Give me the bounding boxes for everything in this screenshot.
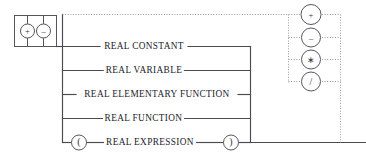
term-label-real-elementary-function: REAL ELEMENTARY FUNCTION: [82, 90, 231, 99]
operator-subtract-glyph: –: [309, 33, 313, 42]
syntax-diagram-canvas: + – REAL CONSTANT REAL VARIABLE REAL ELE…: [0, 0, 366, 159]
close-paren-glyph: ): [229, 137, 232, 147]
operator-add-glyph: +: [309, 10, 314, 19]
open-paren-glyph: (: [77, 137, 80, 147]
sign-minus-glyph: –: [41, 27, 45, 36]
term-label-real-function: REAL FUNCTION: [103, 114, 185, 123]
term-label-real-variable: REAL VARIABLE: [104, 66, 184, 75]
term-label-real-expression: REAL EXPRESSION: [104, 138, 196, 147]
term-label-real-constant: REAL CONSTANT: [102, 42, 186, 51]
sign-plus-glyph: +: [25, 27, 30, 36]
operator-multiply-glyph: ∗: [307, 56, 315, 65]
operator-divide-glyph: /: [310, 77, 313, 87]
